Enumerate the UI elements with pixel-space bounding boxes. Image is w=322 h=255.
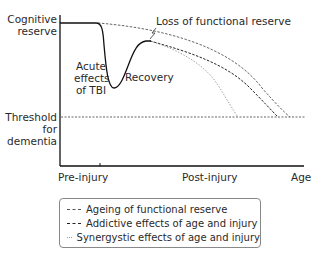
annotation-line: of TBI <box>74 84 108 96</box>
loss-pointer-icon <box>150 28 156 39</box>
annotation-acute-effects: Acute effects of TBI <box>74 60 108 96</box>
x-label-age: Age <box>291 171 311 183</box>
annotation-loss-of-functional-reserve: Loss of functional reserve <box>156 15 291 27</box>
y-label-line: for <box>2 123 57 135</box>
y-label-cognitive-reserve: Cognitive reserve <box>2 13 57 37</box>
annotation-line: effects <box>74 72 108 84</box>
y-label-line: reserve <box>2 25 57 37</box>
annotation-line: Acute <box>74 60 108 72</box>
legend-label: Addictive effects of age and injury <box>86 218 257 229</box>
legend-item-synergistic: Synergystic effects of age and injury <box>67 230 260 244</box>
y-label-line: Cognitive <box>2 13 57 25</box>
x-label-post-injury: Post-injury <box>182 171 237 183</box>
x-label-pre-injury: Pre-injury <box>58 171 108 183</box>
legend: Ageing of functional reserve Addictive e… <box>59 198 261 248</box>
annotation-recovery: Recovery <box>125 71 174 83</box>
y-label-line: Threshold <box>2 111 57 123</box>
legend-label: Ageing of functional reserve <box>86 204 227 215</box>
legend-item-additive: Addictive effects of age and injury <box>67 216 260 230</box>
y-label-line: dementia <box>2 135 57 147</box>
legend-label: Synergystic effects of age and injury <box>77 232 260 243</box>
y-label-threshold: Threshold for dementia <box>2 111 57 147</box>
legend-item-ageing: Ageing of functional reserve <box>67 202 260 216</box>
dashed-line-swatch-icon <box>67 223 81 224</box>
dotted-line-swatch-icon <box>67 237 72 238</box>
dashed-line-swatch-icon <box>67 209 81 210</box>
